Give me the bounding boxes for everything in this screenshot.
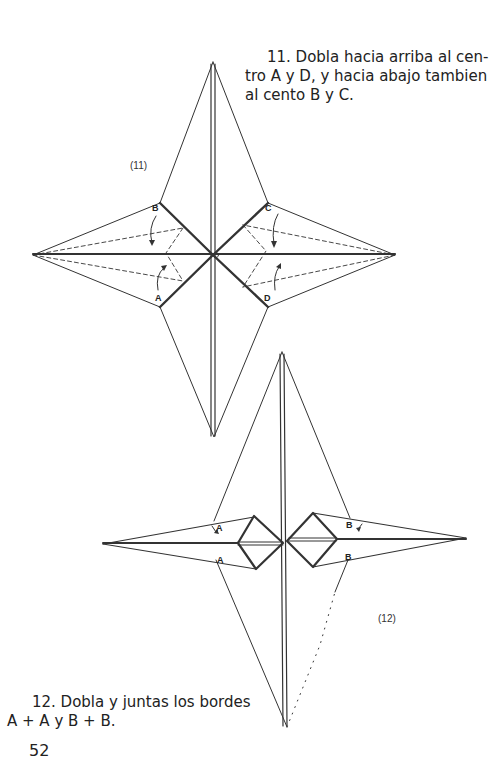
figure-11-diagram (33, 62, 395, 437)
point-d-label: D (264, 293, 271, 303)
step-12-instructions: 12. Dobla y juntas los bordes A + A y B … (7, 693, 267, 731)
figure-12-diagram (103, 352, 466, 727)
point-c-label: C (265, 203, 272, 213)
figure-12-label: (12) (378, 613, 396, 624)
point-a-label: A (155, 293, 162, 303)
point-a-top-label: A (216, 523, 223, 533)
point-a-bottom-label: A (217, 555, 224, 565)
point-b-top-label: B (346, 520, 353, 530)
point-b-label: B (152, 203, 159, 213)
step-12-line-2: A + A y B + B. (7, 712, 267, 731)
point-b-bottom-label: B (345, 552, 352, 562)
origami-diagrams: B A C D A A B B (0, 0, 492, 781)
page-number: 52 (29, 741, 49, 760)
step-12-line-1: 12. Dobla y juntas los bordes (7, 693, 267, 712)
